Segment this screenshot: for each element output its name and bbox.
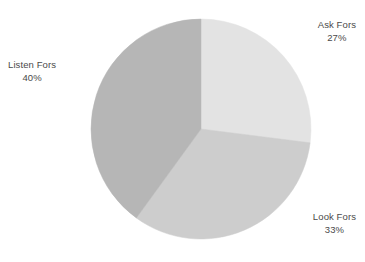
pie-label-ask-fors: Ask Fors 27% (318, 19, 356, 44)
pie-label-listen-fors-value: 40% (8, 72, 56, 85)
pie-label-listen-fors-name: Listen Fors (8, 59, 56, 72)
pie-label-look-fors: Look Fors 33% (313, 211, 356, 236)
pie-label-ask-fors-name: Ask Fors (318, 19, 356, 32)
pie-label-ask-fors-value: 27% (318, 32, 356, 45)
pie-label-look-fors-name: Look Fors (313, 211, 356, 224)
pie-chart: Ask Fors 27% Look Fors 33% Listen Fors 4… (0, 0, 365, 262)
pie-label-listen-fors: Listen Fors 40% (8, 59, 56, 84)
pie-label-look-fors-value: 33% (313, 224, 356, 237)
pie-slice-ask-fors[interactable] (201, 19, 311, 143)
pie-slices (91, 19, 311, 239)
pie-chart-canvas (0, 0, 365, 262)
